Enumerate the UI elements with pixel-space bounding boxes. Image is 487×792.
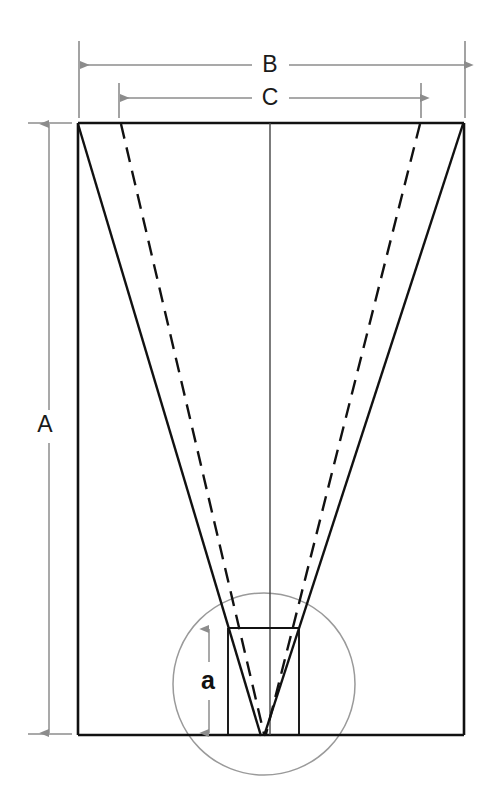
dimension-a-overall: A <box>28 123 72 734</box>
dimension-a-label: A <box>37 411 53 437</box>
technical-diagram: B C A <box>0 0 487 792</box>
solid-taper-left <box>78 124 261 736</box>
solid-taper-right <box>264 124 463 736</box>
dimension-a-detail-label: a <box>201 666 216 694</box>
dimension-b-label: B <box>262 51 277 77</box>
dashed-taper-left <box>121 124 264 734</box>
dashed-taper-right <box>266 124 420 734</box>
dimension-c: C <box>119 83 421 118</box>
dimension-c-label: C <box>262 84 279 110</box>
dimension-a-detail: a <box>201 629 216 733</box>
diagram-canvas: B C A <box>0 0 487 792</box>
outer-rectangle <box>78 123 464 735</box>
